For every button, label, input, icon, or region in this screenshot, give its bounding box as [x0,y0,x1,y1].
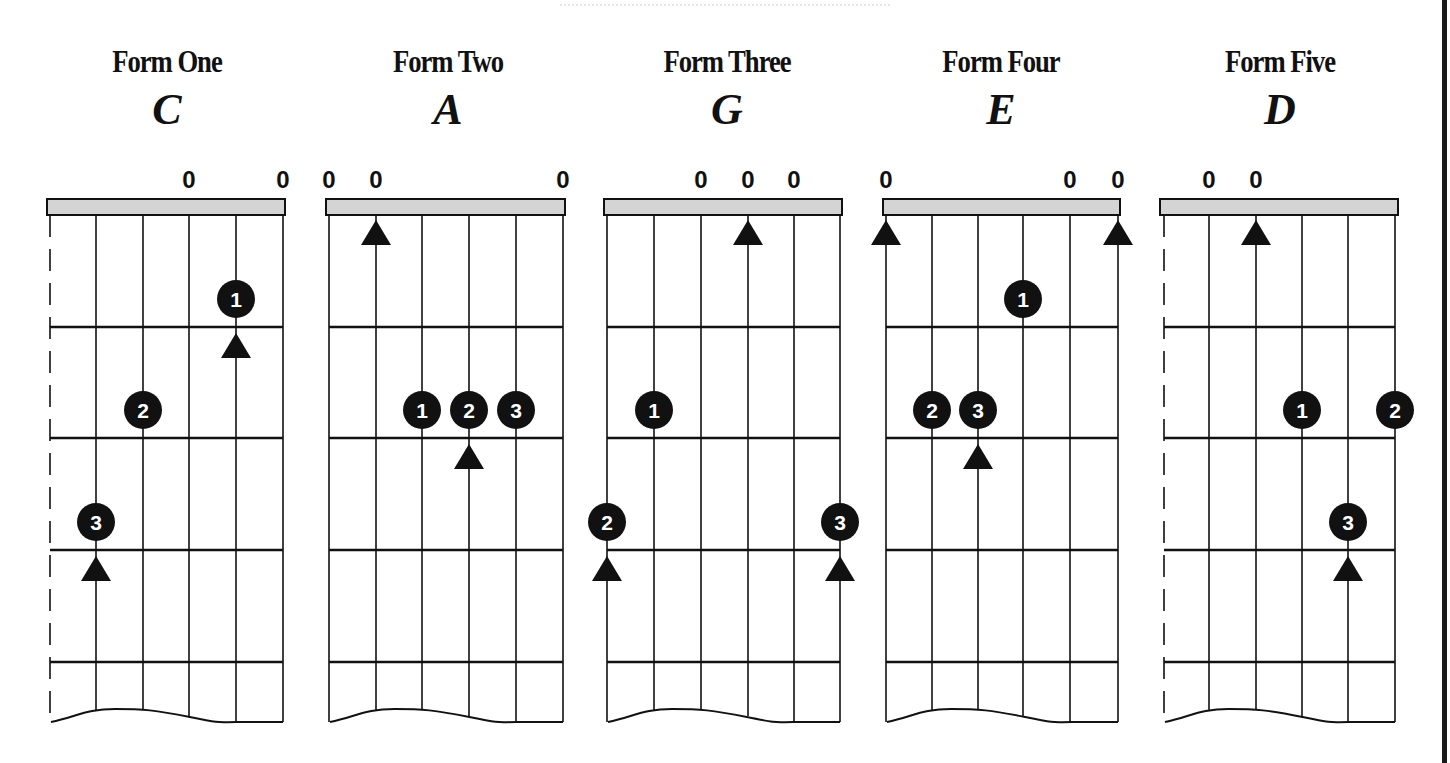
finger-number: 3 [510,399,522,422]
root-triangle-icon [1241,220,1271,245]
finger-number: 2 [463,399,475,422]
chord-forms-diagram: Form One C Form Two A Form Three G Form … [0,0,1450,763]
finger-number: 1 [1296,399,1308,422]
fretboard-2: 000123 [322,166,569,722]
finger-number: 2 [137,399,149,422]
open-string-label: 0 [1063,166,1076,193]
nut [1160,199,1398,215]
neck-cut-edge [608,709,840,722]
nut [47,199,285,215]
nut [604,199,842,215]
open-string-label: 0 [787,166,800,193]
nut [326,199,565,215]
finger-number: 1 [648,399,660,422]
finger-number: 1 [1017,288,1029,311]
root-triangle-icon [592,556,622,581]
finger-number: 1 [230,288,242,311]
fretboard-diagrams: 0012300012300012300012300123 [0,0,1450,763]
nut [883,199,1120,215]
open-string-label: 0 [322,166,335,193]
open-string-label: 0 [1111,166,1124,193]
finger-number: 2 [601,511,613,534]
root-triangle-icon [825,556,855,581]
neck-cut-edge [887,709,1118,722]
finger-number: 1 [416,399,428,422]
finger-number: 3 [972,399,984,422]
open-string-label: 0 [182,166,195,193]
open-string-label: 0 [556,166,569,193]
root-triangle-icon [361,220,391,245]
neck-cut-edge [51,709,283,722]
open-string-label: 0 [1249,166,1262,193]
finger-number: 2 [1389,399,1401,422]
finger-number: 3 [90,511,102,534]
neck-cut-edge [330,709,563,722]
open-string-label: 0 [1202,166,1215,193]
fretboard-3: 000123 [588,166,859,722]
finger-number: 3 [1342,511,1354,534]
root-triangle-icon [221,333,251,358]
fretboard-1: 00123 [47,166,290,722]
fretboard-4: 000123 [871,166,1133,722]
fretboard-5: 00123 [1160,166,1414,722]
open-string-label: 0 [369,166,382,193]
root-triangle-icon [733,220,763,245]
open-string-label: 0 [741,166,754,193]
open-string-label: 0 [276,166,289,193]
root-triangle-icon [454,444,484,469]
root-triangle-icon [1103,220,1133,245]
open-string-label: 0 [694,166,707,193]
root-triangle-icon [871,220,901,245]
finger-number: 2 [926,399,938,422]
finger-number: 3 [834,511,846,534]
neck-cut-edge [1165,709,1395,722]
root-triangle-icon [81,556,111,581]
page-border-right [1442,0,1447,763]
root-triangle-icon [1333,556,1363,581]
root-triangle-icon [963,444,993,469]
open-string-label: 0 [879,166,892,193]
